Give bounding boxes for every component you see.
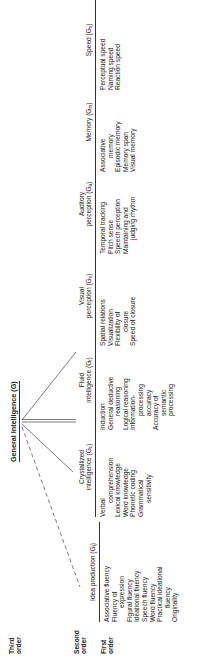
first-order-ability: Originality — [171, 522, 179, 622]
row-label-line: order — [15, 637, 22, 654]
factor-heading-text: Speed (G — [85, 28, 92, 56]
first-order-ability: Perceptual speed — [99, 0, 107, 90]
first-order-ability: Flexibility of — [114, 246, 122, 346]
first-order-ability: processing — [137, 330, 145, 430]
factor-subscript: v — [88, 276, 93, 278]
first-order-ability: Associative fluency — [103, 522, 111, 622]
first-order-ability: accuracy — [145, 330, 153, 430]
row-label-line: order — [80, 630, 87, 654]
factor-subscript: s — [88, 26, 93, 28]
factor-heading-text: intelligence (G — [85, 361, 92, 403]
first-order-ability: Word fluency — [149, 522, 157, 622]
first-order-ability: Spatial relations — [99, 246, 107, 346]
factor-subscript: m — [88, 105, 93, 109]
factor-speed: Speed (Gs) Perceptual speedNaming speedR… — [76, 0, 122, 90]
first-order-ability: processing — [167, 330, 175, 430]
factor-heading-text: perception (G — [85, 278, 92, 318]
first-order-ability: Grammatical — [137, 417, 145, 517]
intelligence-hierarchy-diagram: Third order Second order First order Gen… — [0, 0, 215, 662]
first-order-list: Spatial relationsVisualizationFlexibilit… — [99, 246, 137, 346]
factor-heading-line1: Crystallized — [78, 417, 86, 517]
row-label-line: Third — [8, 637, 15, 654]
first-order-ability: Visual memory — [129, 72, 137, 172]
first-order-ability: Fluency of — [111, 522, 119, 622]
factor-visual-perception: Visual perception (Gv) Spatial relations… — [76, 246, 137, 346]
first-order-ability: sensitivity — [145, 417, 153, 517]
first-order-list: Perceptual speedNaming speedReaction spe… — [99, 0, 122, 90]
first-order-ability: Ideational fluency — [133, 522, 141, 622]
first-order-ability: Speech fluency — [141, 522, 149, 622]
first-order-ability: fluency — [164, 522, 172, 622]
factor-heading: Idea production (Gi) — [80, 522, 100, 622]
row-label-second-order: Second order — [73, 630, 88, 654]
first-order-ability: expression — [118, 522, 126, 622]
factor-subscript: c — [88, 446, 93, 448]
factor-crystallized-intelligence: Crystallized intelligence (Gc) Verbalcom… — [76, 417, 152, 517]
link-visual — [22, 352, 76, 420]
factor-heading-line2: perception (Gv) — [85, 246, 93, 346]
row-label-third-order: Third order — [8, 637, 23, 654]
first-order-ability: comprehension — [107, 417, 115, 517]
first-order-ability: Memory span — [122, 72, 130, 172]
factor-heading: Speed (Gs) — [76, 0, 96, 90]
first-order-ability: Phonetic coding — [129, 417, 137, 517]
factor-subscript: f — [88, 359, 93, 360]
first-order-ability: Verbal — [99, 417, 107, 517]
factor-heading-text: Idea production (G — [89, 546, 96, 601]
factor-heading-text: intelligence (G — [85, 448, 92, 490]
first-order-list: VerbalcomprehensionLexical knowledgeWord… — [99, 417, 152, 517]
factor-heading-line2: Speed (Gs) — [85, 0, 93, 90]
first-order-ability: Lexical knowledge — [114, 417, 122, 517]
row-label-line: First — [100, 637, 107, 654]
factor-subscript: i — [92, 545, 97, 546]
factor-heading-line2: intelligence (Gc) — [85, 417, 93, 517]
first-order-ability: Accuracy of — [152, 330, 160, 430]
factor-heading: Crystallized intelligence (Gc) — [76, 417, 96, 517]
first-order-ability: Speed of closure — [129, 246, 137, 346]
factor-idea-production: Idea production (Gi) Associative fluency… — [80, 522, 179, 622]
first-order-ability: Naming speed — [107, 0, 115, 90]
row-label-first-order: First order — [100, 637, 115, 654]
factor-heading-line1: Visual — [78, 246, 86, 346]
first-order-ability: Practical ideational — [156, 522, 164, 622]
general-intelligence-title: General Intelligence (G) — [10, 381, 20, 462]
factor-heading-text: Memory (G — [85, 109, 92, 142]
first-order-ability: Visualization — [107, 246, 115, 346]
first-order-ability: Reaction speed — [114, 0, 122, 90]
factor-subscript: a — [88, 184, 93, 187]
factor-heading-text: perception (G — [85, 186, 92, 226]
factor-heading: Visual perception (Gv) — [76, 246, 96, 346]
factor-heading-line2: Idea production (Gi) — [89, 522, 97, 622]
row-label-line: order — [107, 637, 114, 654]
first-order-list: Associative fluencyFluency ofexpressionF… — [103, 522, 179, 622]
first-order-ability: closure — [122, 246, 130, 346]
first-order-ability: Figural fluency — [126, 522, 134, 622]
first-order-ability: Word knowledge — [122, 417, 130, 517]
row-label-line: Second — [73, 630, 80, 654]
first-order-ability: semantic — [160, 330, 168, 430]
